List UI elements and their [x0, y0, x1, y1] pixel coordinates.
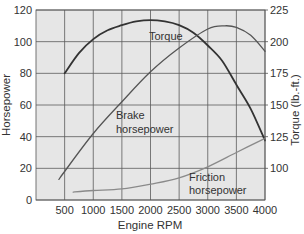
y2-tick-label: 150 — [270, 99, 288, 111]
x-tick-label: 3500 — [224, 204, 248, 216]
friction-label-line2: horsepower — [189, 184, 247, 196]
x-tick-label: 4000 — [253, 204, 277, 216]
friction-label-line1: Friction — [189, 171, 225, 183]
y-tick-label: 100 — [14, 36, 32, 48]
x-tick-label: 500 — [55, 204, 73, 216]
x-axis-ticks: 5001000150020002500300035004000 — [55, 204, 277, 216]
y2-tick-label: 225 — [270, 4, 288, 16]
y-tick-label: 60 — [20, 99, 32, 111]
right-axis-ticks: 100125150175200225 — [265, 4, 288, 174]
x-tick-label: 1000 — [81, 204, 105, 216]
y2-tick-label: 100 — [270, 162, 288, 174]
left-axis-ticks: 020406080100120 — [14, 4, 32, 206]
y2-tick-label: 200 — [270, 36, 288, 48]
x-axis-title: Engine RPM — [118, 219, 183, 231]
y2-tick-label: 175 — [270, 67, 288, 79]
x-tick-label: 1500 — [110, 204, 134, 216]
x-tick-label: 3000 — [196, 204, 220, 216]
torque-label: Torque — [149, 30, 183, 42]
y-tick-label: 120 — [14, 4, 32, 16]
x-tick-label: 2000 — [138, 204, 162, 216]
y-tick-label: 20 — [20, 162, 32, 174]
y-tick-label: 80 — [20, 67, 32, 79]
y2-tick-label: 125 — [270, 131, 288, 143]
y-tick-label: 40 — [20, 131, 32, 143]
y2-axis-title: Torque (lb.-ft.) — [289, 74, 301, 146]
y-tick-label: 0 — [26, 194, 32, 206]
y-axis-title: Horsepower — [0, 74, 12, 136]
brake-label-line1: Brake — [116, 109, 145, 121]
brake-label-line2: horsepower — [116, 123, 174, 135]
engine-performance-chart: 020406080100120 100125150175200225 50010… — [0, 0, 304, 234]
x-tick-label: 2500 — [167, 204, 191, 216]
